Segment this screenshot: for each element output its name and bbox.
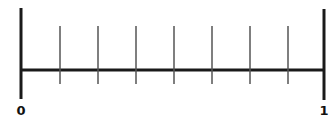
start-label: 0 — [16, 103, 25, 118]
tick-marks — [60, 26, 288, 84]
number-line-diagram: 0 1 — [0, 0, 336, 123]
end-label: 1 — [319, 103, 328, 118]
